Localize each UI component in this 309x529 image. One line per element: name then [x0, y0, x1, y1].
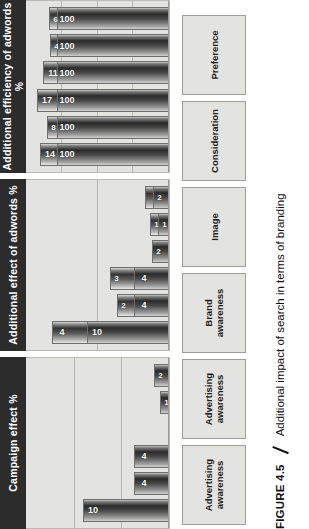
figure-number: FIGURE 4.5 [274, 464, 286, 529]
chart-panel-campaign-effect: Campaign effect % 10 4 [0, 357, 170, 529]
bar-value-label: 10 [88, 506, 98, 516]
bar-value-label: 4 [141, 301, 146, 311]
bar-column: 14 100 [40, 143, 168, 166]
bar-column: 2 [152, 240, 168, 263]
category-label: Brand awareness [182, 273, 246, 353]
bar-value-label: 2 [158, 371, 162, 380]
bar-column: 4 [134, 472, 168, 495]
bar-column: 10 [83, 499, 168, 522]
bar-segment-base: 10 [88, 321, 168, 344]
bar-value-label: 100 [59, 122, 74, 132]
axis-baseline [168, 358, 169, 528]
bar-value-label: 8 [51, 123, 55, 132]
chart-panel-additional-effect: Additional effect of adwords % 4 10 [0, 179, 170, 351]
bar-column: 6 100 [49, 7, 168, 30]
bar-column: 2 4 [117, 294, 168, 317]
axis-baseline [168, 180, 169, 350]
bar-segment-base: 4 [135, 294, 168, 317]
bar-value-label: 100 [59, 68, 74, 78]
bar-value-label: 100 [59, 95, 74, 105]
bar-column: 11 100 [43, 61, 168, 84]
bar-segment-additional [145, 186, 154, 209]
bar-segment-additional: 8 [47, 116, 58, 139]
axis-baseline [168, 1, 169, 172]
bar-value-label: 100 [59, 14, 74, 24]
bar-value-label: 4 [141, 452, 146, 462]
plot-area: 4 10 2 4 [26, 179, 170, 351]
bar-value-label: 4 [59, 328, 64, 338]
bar-value-label: 1 [164, 398, 168, 407]
bar-value-label: 2 [121, 301, 125, 310]
bar-segment-base: 100 [58, 89, 168, 112]
bar-group: 14 100 8 100 [30, 5, 168, 168]
chart-panel-additional-efficiency: Additional efficiency of adwords % 14 10… [0, 0, 170, 173]
bar-segment: 10 [83, 499, 168, 522]
bar-segment-additional: 17 [37, 89, 58, 112]
rotated-figure-wrapper: Campaign effect % 10 4 [0, 0, 309, 529]
bar-group: 10 4 4 [30, 362, 168, 524]
bar-segment-additional: 11 [43, 61, 58, 84]
bar-value-label: 3 [114, 274, 118, 283]
bar-column: 1 [160, 391, 168, 414]
bar-value-label: 4 [141, 274, 146, 284]
bar-segment-additional: 3 [110, 267, 135, 290]
bar-column: 2 [145, 186, 168, 209]
bar-segment-base: 2 [154, 186, 168, 209]
bar-column: 4 [134, 445, 168, 468]
bar-segment: 4 [134, 472, 168, 495]
panel-title: Campaign effect % [0, 357, 26, 529]
category-label: Image [182, 187, 246, 267]
bar-value-label: 100 [59, 149, 74, 159]
bar-segment-additional: 4 [52, 321, 88, 344]
bar-segment-base: 2 [152, 240, 168, 263]
bar-segment-additional: 14 [40, 143, 58, 166]
bar-segment-base: 100 [58, 61, 168, 84]
bar-segment-additional: 6 [49, 7, 58, 30]
bar-segment: 4 [134, 445, 168, 468]
figure-caption: FIGURE 4.5 Additional impact of search i… [268, 0, 292, 529]
category-label: Consideration [182, 101, 246, 181]
bar-value-label: 17 [42, 95, 52, 105]
bar-segment-additional: 2 [117, 294, 135, 317]
bar-value-label: 14 [45, 149, 55, 159]
bar-column: 17 100 [37, 89, 168, 112]
bar-segment-additional: 1 [150, 213, 159, 236]
bar-value-label: 11 [48, 68, 58, 78]
bar-segment-additional: 4 [50, 34, 58, 57]
bar-column: 4 10 [52, 321, 168, 344]
bar-group: 4 10 2 4 [30, 184, 168, 346]
bar-segment-base: 100 [58, 143, 168, 166]
bar-column: 2 [154, 364, 168, 387]
plot-area: 14 100 8 100 [26, 0, 170, 173]
bar-segment: 1 [160, 391, 168, 414]
bar-value-label: 100 [59, 41, 74, 51]
category-label: Advertising awareness [182, 359, 246, 439]
bar-value-label: 4 [141, 479, 146, 489]
category-label-row: Advertising awareness Advertising awaren… [182, 4, 246, 525]
caption-text: Additional impact of search in terms of … [274, 193, 286, 436]
bar-segment-base: 1 [159, 213, 168, 236]
bar-column: 3 4 [110, 267, 168, 290]
caption-slash-rule [273, 442, 287, 458]
bar-column: 4 100 [50, 34, 168, 57]
bar-segment-base: 4 [135, 267, 168, 290]
bar-segment-base: 100 [58, 7, 168, 30]
bar-segment: 2 [154, 364, 168, 387]
bar-value-label: 2 [157, 193, 161, 202]
figure-body: Campaign effect % 10 4 [0, 0, 258, 529]
plot-area: 10 4 4 [26, 357, 170, 529]
bar-segment-base: 100 [58, 34, 168, 57]
panel-title: Additional effect of adwords % [0, 179, 26, 351]
bar-column: 1 1 [150, 213, 168, 236]
category-label: Preference [182, 15, 246, 95]
bar-segment-base: 100 [58, 116, 168, 139]
category-label: Advertising awareness [182, 445, 246, 525]
bar-value-label: 10 [92, 328, 102, 338]
bar-value-label: 2 [156, 247, 160, 256]
panel-title: Additional efficiency of adwords % [0, 0, 26, 173]
bar-column: 8 100 [47, 116, 168, 139]
bar-value-label: 1 [162, 220, 166, 229]
